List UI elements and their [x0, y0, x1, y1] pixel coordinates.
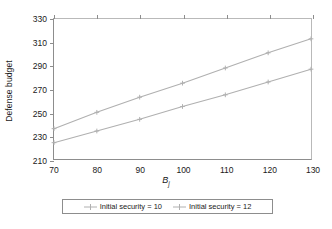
x-axis-label-sub: j — [168, 180, 169, 187]
data-point-marker — [94, 110, 99, 115]
chart-figure: Defense budget 210230250270290310330 708… — [0, 0, 332, 229]
y-tick-mark — [50, 161, 54, 162]
plot-area: 210230250270290310330 708090100110120130 — [53, 18, 312, 160]
data-point-marker — [309, 36, 314, 41]
x-axis-label: Bj — [0, 175, 332, 187]
x-tick-label: 100 — [176, 165, 190, 175]
data-point-marker — [52, 126, 57, 131]
legend-marker-icon — [84, 203, 97, 211]
data-point-marker — [223, 66, 228, 71]
legend-entry[interactable]: Initial security = 12 — [173, 202, 251, 211]
x-tick-label: 70 — [49, 165, 58, 175]
data-point-marker — [266, 50, 271, 55]
data-point-marker — [223, 92, 228, 97]
series-1 — [52, 36, 314, 131]
data-point-marker — [180, 81, 185, 86]
x-tick-label: 110 — [220, 165, 234, 175]
y-axis-label-text: Defense budget — [4, 60, 14, 121]
y-axis-label: Defense budget — [2, 36, 16, 146]
legend-label: Initial security = 10 — [100, 202, 162, 211]
legend-marker-icon — [173, 203, 186, 211]
chart-legend: Initial security = 10Initial security = … — [62, 199, 273, 214]
data-point-marker — [309, 67, 314, 72]
legend-label: Initial security = 12 — [189, 202, 251, 211]
data-point-marker — [180, 104, 185, 109]
data-point-marker — [94, 129, 99, 134]
x-tick-label: 120 — [263, 165, 277, 175]
data-point-marker — [137, 117, 142, 122]
x-tick-label: 80 — [92, 165, 101, 175]
x-tick-mark — [313, 15, 314, 19]
data-point-marker — [137, 95, 142, 100]
series-2 — [52, 67, 314, 145]
data-point-marker — [266, 80, 271, 85]
x-tick-label: 90 — [136, 165, 145, 175]
x-tick-label: 130 — [306, 165, 320, 175]
series-canvas — [54, 19, 311, 159]
legend-entry[interactable]: Initial security = 10 — [84, 202, 162, 211]
